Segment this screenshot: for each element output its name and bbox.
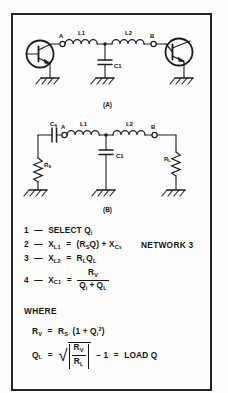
- label-cs-circuit-b: CS: [50, 121, 57, 128]
- caption-panel-a: (A): [103, 101, 112, 108]
- inductor-l2-a: [112, 40, 144, 44]
- resistor-rl: [172, 152, 180, 176]
- node-b-terminal-a: [151, 41, 156, 46]
- label-rl-circuit-b: RL: [164, 156, 171, 163]
- label-node-a-circuit-a: A: [59, 33, 63, 39]
- inductor-l1-a: [65, 40, 97, 44]
- equation-1: 1 — SELECT Qi: [24, 225, 93, 236]
- label-node-b-circuit-a: B: [150, 33, 154, 39]
- transistor-right-envelope: [166, 39, 193, 66]
- fraction-xc1: RV Qi+QL: [77, 268, 109, 293]
- label-c1-circuit-b: C1: [116, 153, 124, 159]
- node-b-terminal-b: [152, 132, 157, 137]
- equation-3: 3 — XL2 = RLQL: [24, 253, 97, 264]
- label-l2-circuit-a: L2: [125, 30, 132, 36]
- sqrt-group: √ RV RL: [58, 342, 91, 369]
- caption-panel-b: (B): [103, 206, 112, 213]
- label-l1-circuit-a: L1: [78, 30, 85, 36]
- radical-icon: √: [58, 350, 67, 362]
- label-l2-circuit-b: L2: [126, 121, 133, 127]
- label-c1-circuit-a: C1: [114, 63, 122, 69]
- figure-page: A L1 L2 B C1 (A) CS A L1 L2 B C1 RS RL (…: [0, 0, 228, 393]
- label-l1-circuit-b: L1: [80, 121, 87, 127]
- equation-ql: QL = √ RV RL − 1 = LOAD Q: [32, 342, 157, 369]
- label-node-b-circuit-b: B: [151, 124, 155, 130]
- where-heading: WHERE: [24, 306, 57, 316]
- node-a-terminal-b: [62, 132, 67, 137]
- fraction-rv-rl: RV RL: [72, 343, 86, 368]
- network-title: NETWORK 3: [141, 240, 193, 250]
- label-node-a-circuit-b: A: [61, 124, 65, 130]
- equation-4: 4 — XC1 = RV Qi+QL: [24, 268, 109, 293]
- node-a-terminal-a: [60, 41, 65, 46]
- inductor-l2-b: [113, 131, 145, 135]
- inductor-l1-b: [67, 131, 99, 135]
- equation-2: 2 — XL1 = (RSQ) + XCS: [24, 239, 121, 250]
- resistor-rs: [34, 158, 42, 182]
- equation-rv: RV = RS (1 + Qi2): [32, 326, 105, 337]
- label-rs-circuit-b: RS: [44, 162, 51, 169]
